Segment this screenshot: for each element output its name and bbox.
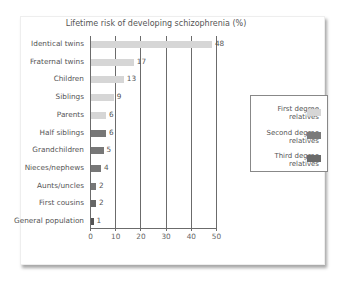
- category-label: Siblings: [56, 92, 84, 101]
- category-label: Half siblings: [40, 128, 84, 137]
- category-label: First cousins: [39, 198, 84, 207]
- bar: [91, 76, 124, 83]
- bar: [91, 59, 134, 66]
- bar-value-label: 9: [117, 92, 122, 101]
- category-label: Identical twins: [31, 39, 84, 48]
- bar-value-label: 13: [127, 74, 136, 83]
- bar: [91, 200, 96, 207]
- gridline: [216, 36, 217, 231]
- x-tick-label: 30: [161, 232, 170, 241]
- bar: [91, 41, 212, 48]
- category-label: Fraternal twins: [30, 57, 84, 66]
- x-axis: [90, 228, 217, 229]
- chart-card: Lifetime risk of developing schizophreni…: [20, 16, 325, 265]
- category-label: Aunts/uncles: [37, 181, 84, 190]
- x-tick-label: 50: [212, 232, 221, 241]
- bar-value-label: 2: [99, 181, 104, 190]
- bar-value-label: 17: [137, 57, 146, 66]
- bar-value-label: 2: [99, 198, 104, 207]
- category-label: Children: [54, 74, 84, 83]
- x-tick-label: 40: [187, 232, 196, 241]
- chart-title: Lifetime risk of developing schizophreni…: [21, 19, 291, 28]
- bar-value-label: 6: [109, 128, 114, 137]
- bar: [91, 94, 114, 101]
- bar: [91, 130, 106, 137]
- bar-value-label: 6: [109, 110, 114, 119]
- x-tick-label: 0: [88, 232, 93, 241]
- category-label: General population: [14, 216, 84, 225]
- legend-swatch-first: [307, 109, 321, 116]
- category-label: Grandchildren: [32, 145, 84, 154]
- bar-value-label: 48: [215, 39, 224, 48]
- gridline: [191, 36, 192, 231]
- bar: [91, 165, 101, 172]
- bar: [91, 147, 104, 154]
- x-tick-label: 10: [111, 232, 120, 241]
- bar-value-label: 4: [104, 163, 109, 172]
- x-tick-label: 20: [136, 232, 145, 241]
- legend-swatch-second: [307, 132, 321, 139]
- legend-swatch-third: [307, 155, 321, 162]
- bar: [91, 183, 96, 190]
- bar-value-label: 5: [107, 145, 112, 154]
- gridline: [166, 36, 167, 231]
- category-label: Parents: [57, 110, 84, 119]
- legend: First degree relatives Second degree rel…: [250, 95, 328, 172]
- bar: [91, 112, 106, 119]
- category-label: Nieces/nephews: [25, 163, 84, 172]
- bar: [91, 218, 94, 225]
- bar-value-label: 1: [97, 216, 102, 225]
